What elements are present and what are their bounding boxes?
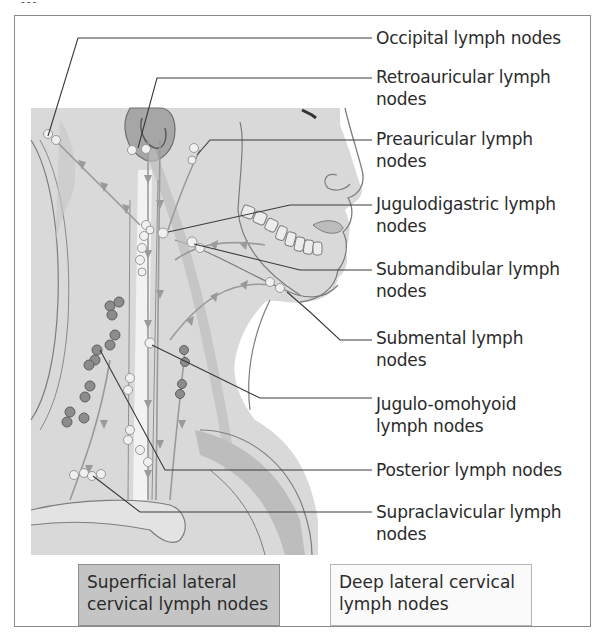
legend-text: Superficial lateral [87, 572, 237, 592]
label-line: Submandibular lymph [376, 259, 560, 279]
label-preauricular-lymph-nodes: Preauricular lymph nodes [376, 128, 533, 172]
label-occipital-lymph-nodes: Occipital lymph nodes [376, 27, 561, 49]
legend-text: Deep lateral cervical [339, 572, 515, 592]
label-line: lymph nodes [376, 416, 483, 436]
legend-deep-nodes: Deep lateral cervical lymph nodes [330, 564, 532, 626]
label-line: nodes [376, 216, 426, 236]
label-supraclavicular-lymph-nodes: Supraclavicular lymph nodes [376, 501, 561, 545]
label-line: nodes [376, 281, 426, 301]
label-line: Posterior lymph nodes [376, 460, 562, 480]
legend-superficial-nodes: Superficial lateral cervical lymph nodes [78, 564, 280, 626]
label-line: nodes [376, 151, 426, 171]
label-retroauricular-lymph-nodes: Retroauricular lymph nodes [376, 66, 551, 110]
label-posterior-lymph-nodes: Posterior lymph nodes [376, 459, 562, 481]
label-line: nodes [376, 350, 426, 370]
head-neck-silhouette [31, 108, 363, 555]
label-line: nodes [376, 89, 426, 109]
label-submental-lymph-nodes: Submental lymph nodes [376, 327, 523, 371]
legend-text: cervical lymph nodes [87, 594, 268, 614]
label-line: Occipital lymph nodes [376, 28, 561, 48]
label-line: Jugulo-omohyoid [376, 394, 516, 414]
label-line: Retroauricular lymph [376, 67, 551, 87]
label-line: Submental lymph [376, 328, 523, 348]
label-line: Jugulodigastric lymph [376, 194, 556, 214]
label-jugulo-omohyoid-lymph-nodes: Jugulo-omohyoid lymph nodes [376, 393, 516, 437]
label-submandibular-lymph-nodes: Submandibular lymph nodes [376, 258, 560, 302]
legend-text: lymph nodes [339, 594, 449, 614]
label-line: nodes [376, 524, 426, 544]
label-line: Supraclavicular lymph [376, 502, 561, 522]
label-line: Preauricular lymph [376, 129, 533, 149]
label-jugulodigastric-lymph-nodes: Jugulodigastric lymph nodes [376, 193, 556, 237]
